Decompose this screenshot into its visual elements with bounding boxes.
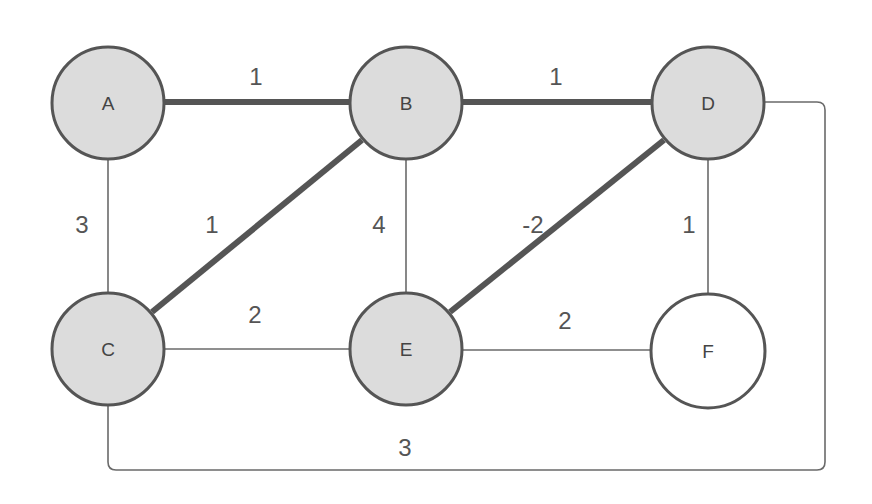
weight-e-f: 2 xyxy=(558,307,571,334)
edge-d-e xyxy=(450,140,664,312)
node-e-label: E xyxy=(400,339,413,360)
weight-a-b: 1 xyxy=(249,63,262,90)
node-d: D xyxy=(652,47,764,159)
node-a-label: A xyxy=(102,93,115,114)
weight-d-e: -2 xyxy=(522,211,543,238)
node-a: A xyxy=(52,47,164,159)
graph-canvas: A B D C E F 1 1 3 1 4 -2 1 xyxy=(0,0,872,504)
weight-b-d: 1 xyxy=(549,63,562,90)
weight-b-c: 1 xyxy=(205,211,218,238)
node-b: B xyxy=(350,47,462,159)
node-f: F xyxy=(651,294,765,408)
edge-b-c xyxy=(152,140,362,312)
node-c-label: C xyxy=(101,339,115,360)
node-d-label: D xyxy=(701,93,715,114)
node-c: C xyxy=(52,293,164,405)
weight-c-e: 2 xyxy=(248,301,261,328)
node-e: E xyxy=(350,293,462,405)
node-f-label: F xyxy=(702,341,714,362)
weight-d-f: 1 xyxy=(682,211,695,238)
node-b-label: B xyxy=(400,93,413,114)
graph-diagram: A B D C E F 1 1 3 1 4 -2 1 xyxy=(0,0,872,504)
weight-a-c: 3 xyxy=(75,211,88,238)
weight-d-c: 3 xyxy=(398,434,411,461)
weight-b-e: 4 xyxy=(372,211,385,238)
